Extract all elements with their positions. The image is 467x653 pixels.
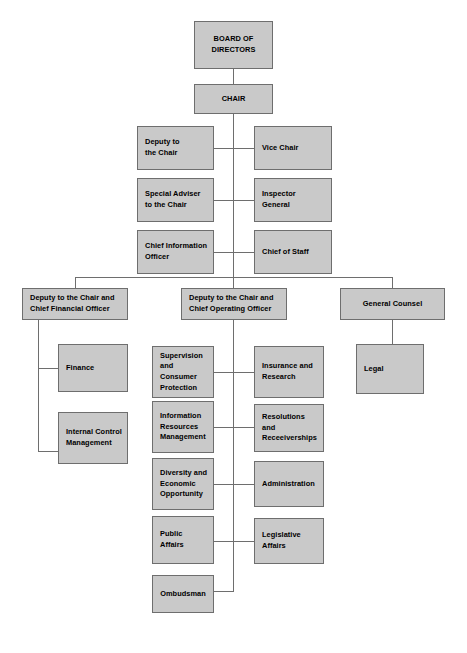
- node-label: Inspector General: [255, 189, 331, 210]
- node-label: Vice Chair: [255, 143, 331, 154]
- connector-stub-chief-information-officer: [214, 252, 234, 253]
- node-public-affairs[interactable]: Public Affairs: [152, 516, 214, 564]
- node-label: Public Affairs: [153, 529, 213, 550]
- connector-stub-vice-chair: [233, 148, 254, 149]
- node-label: Legislative Affairs: [255, 530, 323, 551]
- node-label: Deputy to the Chair and Chief Financial …: [23, 293, 127, 314]
- node-label: Insurance and Research: [255, 361, 323, 382]
- node-legal[interactable]: Legal: [356, 344, 424, 394]
- connector-stub-special-adviser: [214, 200, 234, 201]
- connector-stub-public-affairs: [214, 541, 234, 542]
- node-supervision-and-consumer-protection[interactable]: Supervision and Consumer Protection: [152, 346, 214, 398]
- connector-cfo-spine: [38, 320, 39, 452]
- node-ombudsman[interactable]: Ombudsman: [152, 575, 214, 613]
- node-label: General Counsel: [341, 299, 444, 310]
- node-insurance-and-research[interactable]: Insurance and Research: [254, 346, 324, 398]
- node-resolutions-and-receiverships[interactable]: Resolutions and Receeiverships: [254, 404, 324, 452]
- node-board-of-directors[interactable]: BOARD OF DIRECTORS: [194, 21, 273, 69]
- node-label: Ombudsman: [153, 589, 213, 600]
- connector-stub-ombudsman: [214, 591, 234, 592]
- connector-board-to-chair: [233, 69, 234, 84]
- connector-stub-resolutions: [233, 427, 254, 428]
- node-label: Special Adviser to the Chair: [138, 189, 213, 210]
- node-administration[interactable]: Administration: [254, 461, 324, 507]
- node-chief-information-officer[interactable]: Chief Information Officer: [137, 230, 214, 274]
- node-label: Internal Control Management: [59, 427, 127, 448]
- node-general-counsel[interactable]: General Counsel: [340, 288, 445, 320]
- node-deputy-chair-chief-operating-officer[interactable]: Deputy to the Chair and Chief Operating …: [181, 288, 287, 320]
- node-label: Deputy to the Chair: [138, 137, 213, 158]
- node-label: Diversity and Economic Opportunity: [153, 468, 213, 500]
- node-label: Information Resources Management: [153, 411, 213, 443]
- node-label: CHAIR: [195, 94, 272, 105]
- node-diversity-and-economic-opportunity[interactable]: Diversity and Economic Opportunity: [152, 458, 214, 510]
- node-label: Resolutions and Receeiverships: [255, 412, 323, 444]
- connector-stub-inspector-general: [233, 200, 254, 201]
- connector-stub-deputy-chair: [214, 148, 234, 149]
- node-label: Chief of Staff: [255, 247, 331, 258]
- node-label: Finance: [59, 363, 127, 374]
- connector-stub-internal-control-management: [38, 451, 58, 452]
- connector-bus-drop-coo: [233, 277, 234, 288]
- connector-stub-diversity: [214, 484, 234, 485]
- node-deputy-chair-chief-financial-officer[interactable]: Deputy to the Chair and Chief Financial …: [22, 288, 128, 320]
- org-chart-canvas: BOARD OF DIRECTORS CHAIR Deputy to the C…: [0, 0, 467, 653]
- node-deputy-to-the-chair[interactable]: Deputy to the Chair: [137, 126, 214, 170]
- connector-stub-insurance-and-research: [233, 372, 254, 373]
- node-special-adviser-to-the-chair[interactable]: Special Adviser to the Chair: [137, 178, 214, 222]
- node-finance[interactable]: Finance: [58, 344, 128, 392]
- node-label: BOARD OF DIRECTORS: [195, 34, 272, 55]
- connector-stub-information-resources: [214, 427, 234, 428]
- node-label: Supervision and Consumer Protection: [153, 351, 213, 393]
- node-label: Administration: [255, 479, 323, 490]
- connector-stub-finance: [38, 368, 58, 369]
- connector-stub-supervision: [214, 372, 234, 373]
- connector-bus-drop-cfo: [75, 277, 76, 288]
- connector-bus-drop-general-counsel: [392, 277, 393, 288]
- node-chair[interactable]: CHAIR: [194, 84, 273, 114]
- node-information-resources-management[interactable]: Information Resources Management: [152, 401, 214, 453]
- connector-stub-chief-of-staff: [233, 252, 254, 253]
- connector-division-bus: [75, 277, 393, 278]
- node-label: Legal: [357, 364, 423, 375]
- connector-chair-spine: [233, 114, 234, 278]
- connector-stub-legislative-affairs: [233, 541, 254, 542]
- connector-coo-spine: [233, 320, 234, 591]
- node-vice-chair[interactable]: Vice Chair: [254, 126, 332, 170]
- node-internal-control-management[interactable]: Internal Control Management: [58, 412, 128, 464]
- node-chief-of-staff[interactable]: Chief of Staff: [254, 230, 332, 274]
- node-label: Deputy to the Chair and Chief Operating …: [182, 293, 286, 314]
- node-legislative-affairs[interactable]: Legislative Affairs: [254, 518, 324, 564]
- connector-stub-administration: [233, 484, 254, 485]
- node-label: Chief Information Officer: [138, 241, 213, 262]
- node-inspector-general[interactable]: Inspector General: [254, 178, 332, 222]
